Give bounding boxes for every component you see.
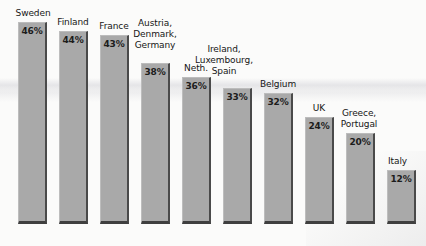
bar-value-belgium: 32%: [265, 97, 291, 107]
bar-ireland-luxembourg-spain: 33%: [223, 88, 252, 224]
bar-netherlands: 36%: [182, 77, 211, 224]
bar-uk: 24%: [305, 117, 334, 224]
bar-value-netherlands: 36%: [183, 81, 209, 91]
bar-value-italy: 12%: [388, 174, 414, 184]
bar-value-france: 43%: [101, 39, 127, 49]
bar-finland: 44%: [59, 31, 88, 224]
bar-label-greece-portugal: Greece, Portugal: [329, 108, 389, 130]
bar-value-greece-portugal: 20%: [347, 137, 373, 147]
bar-sweden: 46%: [18, 22, 47, 224]
bar-value-finland: 44%: [60, 35, 86, 45]
bar-label-ireland-luxembourg-spain: Ireland, Luxembourg, Spain: [186, 44, 262, 77]
bar-label-italy: Italy: [375, 156, 420, 167]
bar-value-ireland-luxembourg-spain: 33%: [224, 92, 250, 102]
bar-france: 43%: [100, 35, 129, 224]
bar-greece-portugal: 20%: [346, 133, 375, 224]
bar-austria-denmark-germany: 38%: [141, 63, 170, 224]
bar-belgium: 32%: [264, 93, 293, 224]
bar-value-austria-denmark-germany: 38%: [142, 67, 168, 77]
bar-chart: Sweden 46% Finland 44% France 43% Austri…: [0, 0, 426, 246]
bar-value-sweden: 46%: [19, 26, 45, 36]
bar-italy: 12%: [387, 170, 416, 224]
bar-label-belgium: Belgium: [252, 79, 304, 90]
bar-label-austria-denmark-germany: Austria, Denmark, Germany: [128, 18, 182, 51]
